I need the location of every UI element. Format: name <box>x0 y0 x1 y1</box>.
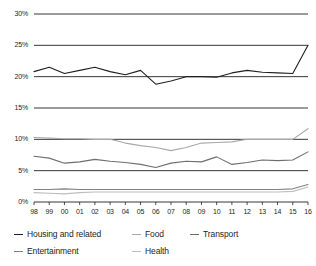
x-tick-label: 04 <box>117 208 133 215</box>
legend-row: EntertainmentHealth <box>14 243 310 260</box>
legend-swatch-icon <box>14 251 23 252</box>
y-tick-label: 15% <box>4 104 28 111</box>
x-tick-label: 99 <box>41 208 57 215</box>
x-tick-label: 13 <box>254 208 270 215</box>
gridlines <box>34 14 308 202</box>
legend-label: Entertainment <box>27 247 79 256</box>
series-line-entertainment <box>34 184 308 189</box>
x-tick-label: 00 <box>56 208 72 215</box>
series-line-housing-and-related <box>34 45 308 84</box>
chart-legend: Housing and relatedFoodTransportEntertai… <box>14 226 310 260</box>
x-tick-label: 09 <box>193 208 209 215</box>
legend-item-entertainment[interactable]: Entertainment <box>14 247 132 256</box>
x-tick-label: 12 <box>239 208 255 215</box>
legend-item-food[interactable]: Food <box>132 230 190 239</box>
x-tick-label: 16 <box>300 208 316 215</box>
x-tick-label: 08 <box>178 208 194 215</box>
legend-item-transport[interactable]: Transport <box>190 230 260 239</box>
x-tick-label: 06 <box>148 208 164 215</box>
y-tick-label: 0% <box>4 198 28 205</box>
series-line-transport <box>34 152 308 168</box>
y-tick-label: 25% <box>4 41 28 48</box>
y-tick-label: 10% <box>4 135 28 142</box>
legend-swatch-icon <box>132 234 141 235</box>
x-tick-label: 10 <box>209 208 225 215</box>
legend-swatch-icon <box>190 234 199 235</box>
legend-label: Food <box>145 230 164 239</box>
x-tick-label: 11 <box>224 208 240 215</box>
legend-label: Housing and related <box>27 230 101 239</box>
x-tick-label: 01 <box>72 208 88 215</box>
x-tick-label: 15 <box>285 208 301 215</box>
legend-swatch-icon <box>132 251 141 252</box>
legend-item-housing-and-related[interactable]: Housing and related <box>14 230 132 239</box>
x-tick-label: 05 <box>133 208 149 215</box>
series-line-health <box>34 187 308 194</box>
x-tick-label: 03 <box>102 208 118 215</box>
legend-item-health[interactable]: Health <box>132 247 190 256</box>
y-tick-label: 20% <box>4 73 28 80</box>
legend-row: Housing and relatedFoodTransport <box>14 226 310 243</box>
x-tick-label: 02 <box>87 208 103 215</box>
legend-label: Transport <box>203 230 238 239</box>
legend-swatch-icon <box>14 234 23 235</box>
x-tick-label: 14 <box>270 208 286 215</box>
y-tick-label: 30% <box>4 10 28 17</box>
y-tick-label: 5% <box>4 167 28 174</box>
x-tick-label: 98 <box>26 208 42 215</box>
data-series-lines <box>34 45 308 194</box>
x-tick-label: 07 <box>163 208 179 215</box>
legend-label: Health <box>145 247 169 256</box>
line-chart: 0%5%10%15%20%25%30% 98990001020304050607… <box>0 0 316 266</box>
